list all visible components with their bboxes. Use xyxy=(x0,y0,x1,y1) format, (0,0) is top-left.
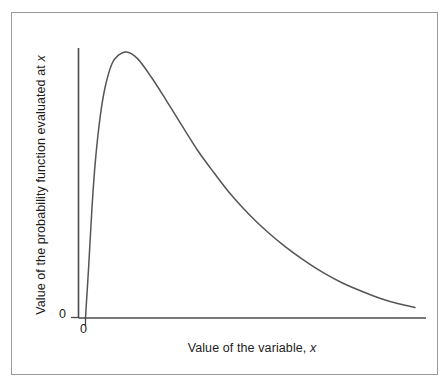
figure-container: Value of the probability function evalua… xyxy=(0,0,448,392)
x-axis-label-variable: x xyxy=(310,341,316,355)
probability-density-curve xyxy=(86,52,416,318)
x-axis-zero-tick-label: 0 xyxy=(80,322,87,336)
plot-area xyxy=(0,0,448,392)
y-axis-zero-tick-label: 0 xyxy=(59,307,66,321)
y-axis-label-text: Value of the probability function evalua… xyxy=(34,62,48,315)
x-axis-label-text: Value of the variable, xyxy=(188,341,310,355)
x-axis-label: Value of the variable, x xyxy=(78,341,426,355)
y-axis-label: Value of the probability function evalua… xyxy=(34,45,48,325)
y-axis-label-variable: x xyxy=(34,55,48,61)
